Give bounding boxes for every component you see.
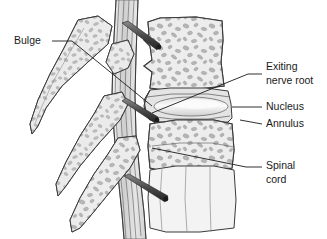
label-bulge: Bulge [14,34,41,46]
diagram-canvas: Bulge Exiting nerve root Nucleus Annulus… [0,0,327,239]
label-nucleus: Nucleus [266,100,304,112]
label-spinal-cord-line2: cord [266,173,287,185]
nucleus-highlight [172,99,220,109]
label-exiting-nerve-root-line1: Exiting [266,60,298,72]
label-spinal-cord-line1: Spinal [266,159,295,171]
label-exiting-nerve-root-line2: nerve root [266,74,313,86]
upper-vertebral-body [140,14,232,96]
spine-diagram: Bulge Exiting nerve root Nucleus Annulus… [0,0,327,239]
label-annulus: Annulus [266,117,304,129]
